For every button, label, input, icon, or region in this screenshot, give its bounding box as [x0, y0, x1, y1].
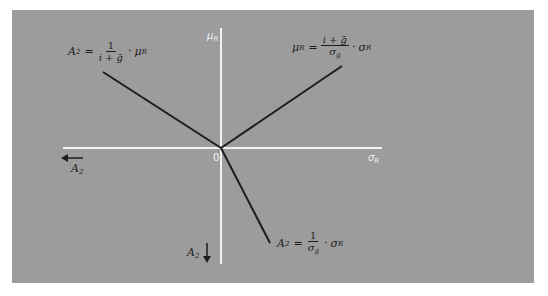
- subscript: R: [374, 157, 379, 165]
- down-arrow-label: A2: [187, 246, 199, 260]
- denominator: i + ḡ: [97, 52, 125, 63]
- horizontal-axis-label: σR: [368, 152, 379, 165]
- eq-rhs-sub: R: [142, 48, 147, 56]
- multiply-dot: ·: [324, 237, 328, 250]
- eq-lhs-sub: 2: [76, 48, 80, 56]
- line-lower: [221, 148, 270, 243]
- subscript: 2: [79, 168, 83, 176]
- equals-sign: =: [293, 237, 302, 250]
- down-arrow-icon: [203, 243, 211, 263]
- eq-lhs: A: [277, 237, 285, 250]
- equals-sign: =: [308, 41, 317, 54]
- eq-rhs: μ: [134, 45, 141, 58]
- numerator: 1: [106, 40, 116, 52]
- fraction: 1 i + ḡ: [97, 40, 125, 63]
- label-text: A: [71, 162, 79, 175]
- subscript: 2: [195, 252, 199, 260]
- equation-upper-right: μR = i + ḡ σg · σR: [292, 34, 371, 61]
- multiply-dot: ·: [128, 45, 132, 58]
- line-upper-right: [221, 66, 342, 148]
- numerator: i + ḡ: [321, 34, 349, 46]
- eq-rhs: σ: [359, 41, 367, 54]
- denominator-sub: g: [336, 51, 340, 59]
- denominator-sub: g: [314, 247, 318, 255]
- denominator: σ: [329, 46, 336, 57]
- left-arrow-label: A2: [71, 162, 83, 176]
- eq-rhs-sub: R: [366, 44, 371, 52]
- line-upper-left: [103, 72, 221, 148]
- multiply-dot: ·: [352, 41, 356, 54]
- origin-label: 0: [213, 152, 219, 163]
- eq-rhs-sub: R: [338, 240, 343, 248]
- fraction: i + ḡ σg: [321, 34, 349, 61]
- numerator: 1: [308, 230, 318, 242]
- equation-upper-left: A2 = 1 i + ḡ · μR: [68, 40, 147, 63]
- eq-lhs-sub: 2: [285, 240, 289, 248]
- left-arrow-icon: [61, 154, 83, 162]
- eq-lhs-sub: R: [299, 44, 304, 52]
- subscript: R: [213, 35, 218, 43]
- eq-rhs: σ: [330, 237, 338, 250]
- eq-lhs: A: [68, 45, 76, 58]
- vertical-axis-label: μR: [207, 30, 218, 43]
- equals-sign: =: [84, 45, 93, 58]
- label-text: A: [187, 246, 195, 259]
- fraction: 1 σg: [306, 230, 321, 257]
- equation-lower: A2 = 1 σg · σR: [277, 230, 343, 257]
